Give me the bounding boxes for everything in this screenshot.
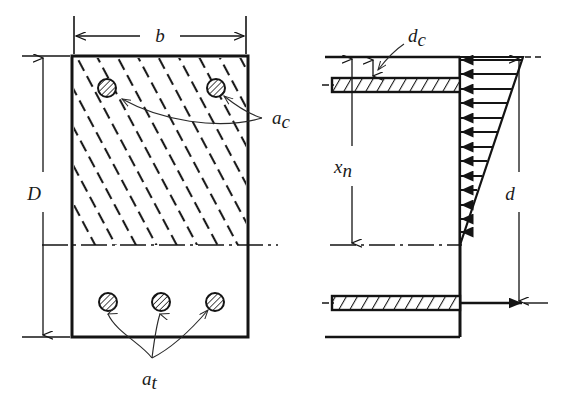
rebar-circle: [152, 293, 170, 311]
compression-stress-block: [460, 57, 523, 245]
dimension-b: b: [74, 16, 246, 54]
rebar-circle: [206, 293, 224, 311]
dimension-D: D: [22, 56, 70, 337]
rebar-circle: [207, 79, 225, 97]
rebar-circle: [99, 293, 117, 311]
label-ac: ac: [272, 107, 291, 132]
dimension-dc: [373, 44, 404, 76]
label-xn: xn: [333, 156, 352, 181]
tension-steel-band: [322, 296, 460, 310]
figure-root: b D ac at: [0, 0, 562, 402]
beam-section-figure: b D ac at: [0, 0, 562, 402]
label-d: d: [505, 183, 515, 204]
compression-steel-band: [322, 78, 460, 92]
stress-triangle: [460, 57, 523, 245]
label-at: at: [142, 368, 158, 393]
rebar-circle: [98, 79, 116, 97]
label-b: b: [155, 25, 165, 46]
label-D: D: [26, 183, 41, 204]
label-dc: dc: [408, 25, 427, 50]
